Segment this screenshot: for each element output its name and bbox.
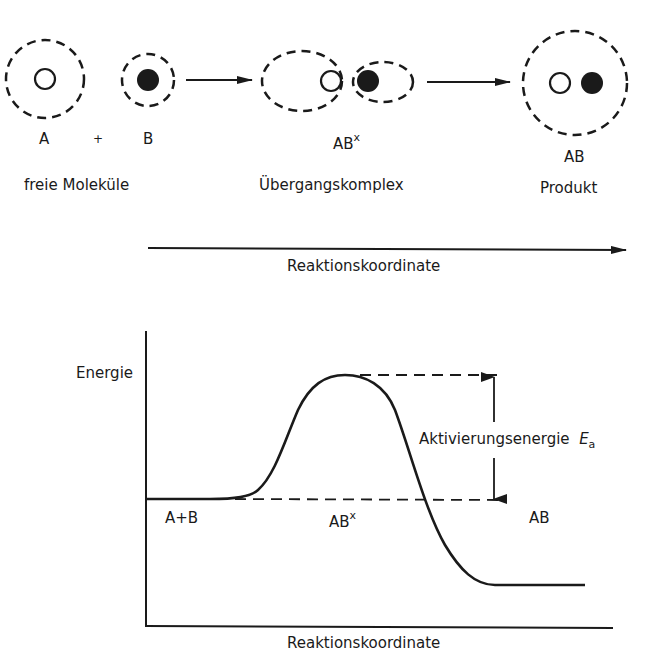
molecule-b: [122, 54, 174, 106]
transition-complex: [262, 51, 413, 111]
molecule-a: [6, 40, 84, 118]
reaction-coordinate-arrow: [148, 248, 626, 250]
transition-caption: Übergangskomplex: [259, 178, 404, 193]
molecule-a-label: A: [39, 132, 49, 147]
activation-symbol: E: [579, 430, 588, 448]
transition-label: ABx: [333, 134, 360, 152]
activation-energy-text: Aktivierungsenergie: [419, 430, 570, 448]
product-caption: Produkt: [540, 181, 597, 196]
activation-energy-label: Aktivierungsenergie Ea: [419, 432, 595, 447]
activation-symbol-sub: a: [589, 438, 596, 451]
plus-sign: +: [93, 133, 103, 145]
transition-state-text: AB: [329, 513, 350, 531]
transition-state-label: ABx: [329, 512, 356, 530]
product-molecule: [523, 31, 627, 135]
product-label: AB: [564, 150, 585, 165]
y-axis-label: Energie: [76, 366, 133, 381]
transition-state-sup: x: [350, 509, 357, 522]
product-energy-label: AB: [529, 511, 550, 526]
molecule-b-label: B: [143, 132, 153, 147]
reactant-label: A+B: [165, 511, 198, 526]
reaction-axis-label: Reaktionskoordinate: [287, 259, 440, 274]
free-molecules-caption: freie Moleküle: [24, 178, 129, 193]
x-axis-label: Reaktionskoordinate: [287, 636, 440, 651]
transition-label-sup: x: [354, 131, 361, 144]
energy-curve: [146, 375, 585, 585]
diagram-canvas: [0, 0, 648, 666]
reactant-level-dashed-line: [235, 499, 503, 500]
transition-label-text: AB: [333, 135, 354, 153]
